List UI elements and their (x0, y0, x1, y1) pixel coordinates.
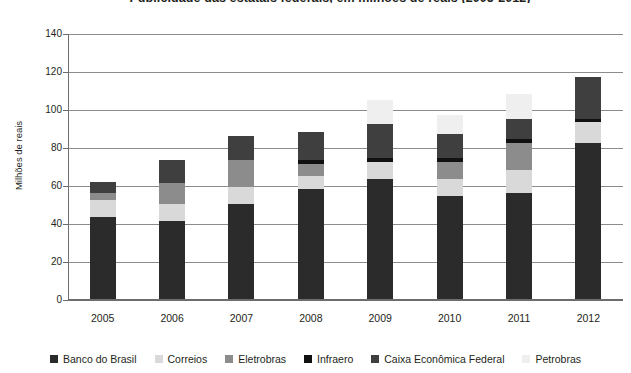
legend-swatch-icon (155, 355, 163, 363)
bar-segment[interactable] (159, 160, 185, 183)
legend-label: Eletrobras (238, 353, 286, 365)
bar-segment[interactable] (367, 162, 393, 179)
gridline (68, 300, 623, 301)
legend-swatch-icon (371, 355, 379, 363)
bar-segment[interactable] (506, 170, 532, 193)
legend-swatch-icon (225, 355, 233, 363)
bar-segment[interactable] (575, 143, 601, 299)
bar-segment[interactable] (437, 115, 463, 134)
legend-item-5[interactable]: Petrobras (522, 353, 581, 365)
bar-segment[interactable] (228, 204, 254, 299)
x-axis-tick-label: 2008 (281, 312, 341, 324)
legend-item-0[interactable]: Banco do Brasil (50, 353, 137, 365)
bar-segment[interactable] (159, 183, 185, 204)
y-axis-tick-label: 0 (24, 295, 62, 305)
bar-series-group (68, 34, 623, 300)
bar-segment[interactable] (437, 179, 463, 196)
legend-swatch-icon (50, 355, 58, 363)
legend-label: Petrobras (535, 353, 581, 365)
bar-segment[interactable] (90, 193, 116, 201)
chart-legend: Banco do BrasilCorreiosEletrobrasInfraer… (0, 349, 631, 369)
bar-segment[interactable] (298, 176, 324, 189)
x-axis-tick-label: 2010 (420, 312, 480, 324)
x-axis-tick-label: 2005 (73, 312, 133, 324)
y-axis-tick-label: 20 (24, 257, 62, 267)
legend-label: Infraero (317, 353, 353, 365)
bar-column[interactable] (506, 94, 532, 299)
bar-segment[interactable] (506, 94, 532, 119)
bar-segment[interactable] (575, 122, 601, 143)
y-axis-tick-label: 100 (24, 105, 62, 115)
bar-segment[interactable] (159, 221, 185, 299)
bar-segment[interactable] (367, 100, 393, 124)
bar-segment[interactable] (506, 193, 532, 299)
legend-item-2[interactable]: Eletrobras (225, 353, 286, 365)
legend-label: Correios (168, 353, 208, 365)
y-axis-tick-label: 80 (24, 143, 62, 153)
bar-segment[interactable] (228, 136, 254, 161)
x-axis-tick-label: 2012 (558, 312, 618, 324)
bar-segment[interactable] (298, 189, 324, 299)
x-axis-line (68, 299, 623, 300)
bar-segment[interactable] (90, 182, 116, 192)
y-axis-tick-label: 140 (24, 29, 62, 39)
bar-column[interactable] (437, 115, 463, 299)
bar-segment[interactable] (437, 162, 463, 179)
chart-title: Publicidade das estatais federais, em mi… (120, 0, 540, 3)
bar-column[interactable] (159, 160, 185, 299)
x-axis-tick-label: 2007 (211, 312, 271, 324)
stacked-bar-chart: Publicidade das estatais federais, em mi… (0, 0, 631, 373)
legend-item-1[interactable]: Correios (155, 353, 208, 365)
y-axis-title: Milhões de reais (13, 86, 24, 226)
bar-segment[interactable] (437, 196, 463, 299)
plot-area: 020406080100120140 200520062007200820092… (68, 34, 623, 300)
bar-segment[interactable] (575, 77, 601, 119)
bar-segment[interactable] (228, 187, 254, 204)
bar-segment[interactable] (159, 204, 185, 221)
bar-segment[interactable] (367, 179, 393, 299)
y-axis-tick-label: 40 (24, 219, 62, 229)
bar-column[interactable] (228, 136, 254, 299)
bar-segment[interactable] (298, 164, 324, 175)
y-axis-tick-label: 60 (24, 181, 62, 191)
y-axis-line (68, 34, 69, 300)
legend-label: Banco do Brasil (63, 353, 137, 365)
legend-label: Caixa Econômica Federal (384, 353, 504, 365)
legend-item-3[interactable]: Infraero (304, 353, 353, 365)
bar-segment[interactable] (90, 217, 116, 299)
bar-column[interactable] (90, 182, 116, 299)
x-axis-tick-label: 2006 (142, 312, 202, 324)
legend-swatch-icon (522, 355, 530, 363)
legend-swatch-icon (304, 355, 312, 363)
x-axis-tick-label: 2009 (350, 312, 410, 324)
x-axis-tick-label: 2011 (489, 312, 549, 324)
bar-column[interactable] (575, 77, 601, 299)
legend-item-4[interactable]: Caixa Econômica Federal (371, 353, 504, 365)
bar-segment[interactable] (228, 160, 254, 187)
bar-column[interactable] (298, 132, 324, 299)
bar-segment[interactable] (298, 132, 324, 161)
bar-segment[interactable] (506, 143, 532, 170)
bar-segment[interactable] (367, 124, 393, 158)
bar-segment[interactable] (90, 200, 116, 217)
bar-column[interactable] (367, 100, 393, 299)
bar-segment[interactable] (506, 119, 532, 140)
x-axis-tick-labels: 20052006200720082009201020112012 (68, 304, 623, 324)
bar-segment[interactable] (437, 134, 463, 159)
y-axis-tick (63, 300, 68, 301)
y-axis-tick-label: 120 (24, 67, 62, 77)
